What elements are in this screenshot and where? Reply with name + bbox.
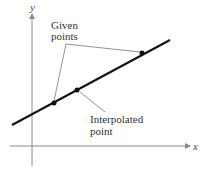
interpolated-point-label-line1: Interpolated: [90, 113, 144, 125]
given-points-leader: [54, 44, 140, 101]
interpolated-point: [75, 88, 80, 93]
interpolated-point-label-line2: point: [90, 125, 113, 137]
interpolated-point-leader: [80, 92, 105, 112]
y-axis-label: y: [29, 1, 35, 13]
given-point-2: [140, 51, 145, 56]
interpolation-diagram: y x Given points Interpolated point: [0, 0, 213, 179]
given-points-label-line2: points: [51, 30, 78, 42]
given-point-1: [52, 101, 57, 106]
x-axis-label: x: [192, 140, 198, 152]
